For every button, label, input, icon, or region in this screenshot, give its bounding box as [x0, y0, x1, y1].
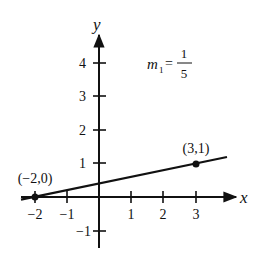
x-tick-label: −2 — [28, 207, 43, 222]
y-tick-label: 4 — [79, 56, 86, 71]
point-3-1 — [193, 161, 200, 168]
y-tick-label: 2 — [79, 123, 86, 138]
slope-annotation: m 1 = 1 5 — [147, 46, 192, 81]
coordinate-plot: x y −2 −1 1 2 3 4 3 2 1 −1 (−2,0) (3,1) … — [0, 0, 264, 259]
slope-subscript: 1 — [159, 65, 164, 75]
x-tick-label: 1 — [128, 207, 135, 222]
y-tick-label: 3 — [79, 89, 86, 104]
point-label: (3,1) — [183, 141, 210, 157]
slope-equals: = — [165, 56, 173, 71]
y-tick-label: −1 — [76, 224, 91, 239]
x-axis-label: x — [239, 188, 248, 207]
x-tick-label: 2 — [160, 207, 167, 222]
slope-var: m — [147, 56, 158, 72]
y-axis-label: y — [91, 15, 101, 34]
y-tick-label: 1 — [79, 156, 86, 171]
slope-denominator: 5 — [181, 66, 188, 81]
point-label: (−2,0) — [18, 171, 53, 187]
x-tick-label: 3 — [193, 207, 200, 222]
x-tick-label: −1 — [60, 207, 75, 222]
point-neg2-0 — [32, 194, 39, 201]
slope-numerator: 1 — [181, 46, 188, 61]
